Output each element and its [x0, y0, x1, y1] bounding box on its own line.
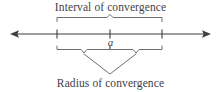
radius-of-convergence-diagram: Interval of convergence a Radius of conv… — [0, 0, 221, 92]
radius-of-convergence-label: Radius of convergence — [0, 78, 221, 90]
leader-v-path — [84, 54, 136, 74]
interval-of-convergence-label: Interval of convergence — [0, 2, 221, 14]
radius-leader-lines — [84, 54, 136, 74]
interval-of-convergence-brace — [57, 15, 162, 22]
center-point-label-a: a — [0, 37, 221, 48]
interval-brace-path — [57, 15, 162, 22]
